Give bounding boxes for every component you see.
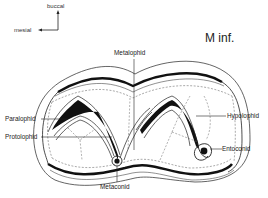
central-crest [120, 108, 152, 160]
molar-diagram: buccal mesial M inf. [0, 0, 268, 198]
mesial-label: mesial [14, 27, 31, 33]
enamel-band-bottom [48, 164, 232, 174]
metaconid-crest [48, 96, 122, 166]
buccal-label: buccal [47, 3, 64, 9]
metaconid-label: Metaconid [100, 183, 130, 190]
paralophid-label: Paralophid [5, 115, 36, 123]
hypolophid-label: Hypolophid [227, 112, 259, 120]
arrow-up-icon [57, 10, 60, 14]
arrow-left-icon [38, 29, 42, 32]
metalophid-label: Metalophid [114, 49, 146, 57]
protolophid-label: Protolophid [5, 133, 38, 141]
entoconid-label: Entoconid [222, 145, 251, 152]
orientation-indicator: buccal mesial [14, 3, 64, 33]
diagram-title: M inf. [205, 31, 234, 45]
enamel-band-top [58, 73, 222, 92]
internal-dashed-lines [68, 96, 210, 160]
